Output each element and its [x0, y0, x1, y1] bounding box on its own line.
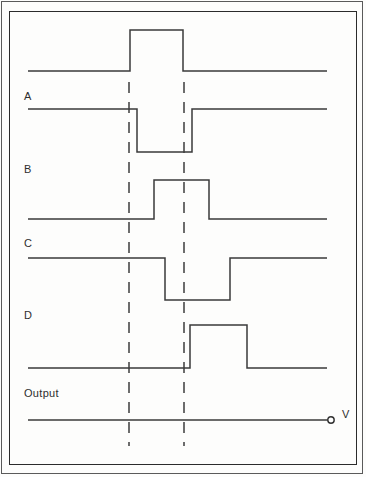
output-terminal-node [328, 417, 334, 423]
output-terminal-group [328, 417, 334, 423]
trace-label-a: A [24, 91, 32, 102]
trace-label-b: B [24, 164, 32, 175]
waveform-d [28, 325, 327, 368]
top-waveform [28, 30, 327, 71]
trace-label-output: Output [24, 388, 59, 399]
waveform-a [28, 109, 327, 152]
terminal-label-v: V [342, 409, 349, 420]
waveform-b [28, 180, 327, 219]
timing-diagram-figure: A B C D Output V [0, 0, 366, 477]
waveform-canvas [0, 0, 366, 477]
trace-label-d: D [24, 310, 32, 321]
waveform-c [28, 258, 327, 300]
trace-label-c: C [24, 238, 32, 249]
waveform-group [28, 30, 328, 420]
